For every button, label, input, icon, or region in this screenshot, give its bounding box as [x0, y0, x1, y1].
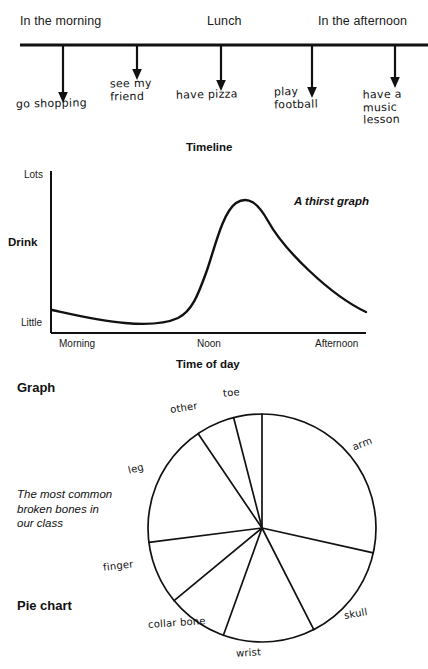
line-graph-figure: Lots Drink Little A thirst graph Morning…	[0, 155, 428, 370]
x-axis-tick-noon: Noon	[197, 338, 221, 349]
timeline-event-go-shopping: go shopping	[16, 97, 87, 111]
x-axis-tick-afternoon: Afternoon	[315, 338, 358, 349]
pie-label-wrist: wrist	[236, 646, 262, 659]
worksheet-page: In the morning Lunch In the afternoon go…	[0, 0, 428, 669]
pie-chart-graphic	[0, 370, 428, 669]
thirst-curve-path	[52, 200, 366, 324]
pie-label-toe: toe	[223, 386, 241, 399]
pie-chart-figure: Graph The most common broken bones in ou…	[0, 370, 428, 669]
x-axis-tick-morning: Morning	[59, 338, 95, 349]
timeline-event-have-a-music-lesson: have a music lesson	[363, 89, 403, 128]
graph-annotation: A thirst graph	[294, 195, 369, 207]
timeline-event-have-pizza: have pizza	[176, 88, 238, 102]
timeline-figure: In the morning Lunch In the afternoon go…	[0, 0, 428, 165]
timeline-caption: Timeline	[186, 141, 232, 153]
timeline-event-see-my-friend: see my friend	[110, 78, 152, 104]
x-axis-title: Time of day	[176, 358, 240, 370]
timeline-event-play-football: play football	[274, 86, 318, 112]
